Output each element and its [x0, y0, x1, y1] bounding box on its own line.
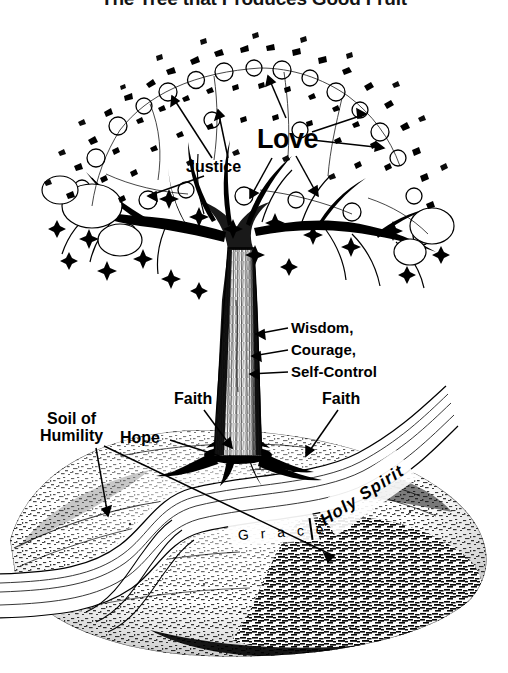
label-wisdom: Wisdom,	[291, 320, 353, 336]
label-faith-left: Faith	[174, 391, 212, 408]
label-self-control: Self-Control	[291, 364, 377, 380]
label-soil-line2: Humility	[40, 428, 103, 445]
label-soil-line1: Soil of	[47, 410, 96, 427]
label-love: Love	[257, 125, 318, 153]
illustration-page: The Tree that Produces Good Fruit	[0, 0, 508, 673]
label-hope: Hope	[120, 430, 160, 447]
label-faith-right: Faith	[322, 391, 360, 408]
page-title: The Tree that Produces Good Fruit	[0, 0, 508, 10]
label-justice: Justice	[186, 159, 241, 176]
label-soil-of-humility: Soil of Humility	[40, 411, 103, 445]
tree-diagram	[0, 0, 508, 673]
label-courage: Courage,	[291, 342, 356, 358]
